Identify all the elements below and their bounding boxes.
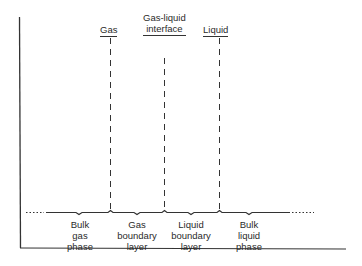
- label-liquid-text: Liquid: [203, 24, 228, 35]
- label-interface-line1: Gas-liquid: [143, 12, 186, 23]
- region-bulk-gas-line2: gas: [60, 230, 100, 241]
- left-axis: [20, 17, 21, 248]
- region-bulk-liquid-line3: phase: [229, 241, 269, 252]
- region-bulk-liquid-line2: liquid: [229, 230, 269, 241]
- region-liquid-boundary-line1: Liquid: [166, 219, 216, 230]
- region-brace-line: [46, 211, 290, 215]
- label-interface-line2: interface: [143, 23, 186, 34]
- label-liquid: Liquid: [203, 24, 228, 37]
- region-bulk-liquid-line1: Bulk: [229, 219, 269, 230]
- region-bulk-gas-phase: Bulk gas phase: [60, 219, 100, 252]
- label-gas-liquid-interface: Gas-liquid interface: [143, 12, 186, 36]
- region-liquid-boundary-line2: boundary: [166, 230, 216, 241]
- region-gas-boundary-line2: boundary: [112, 230, 162, 241]
- gas-liquid-interface-diagram: Gas Gas-liquid interface Liquid Bulk gas…: [0, 0, 362, 266]
- label-gas: Gas: [100, 24, 117, 37]
- label-gas-text: Gas: [100, 24, 117, 35]
- region-gas-boundary-line1: Gas: [112, 219, 162, 230]
- region-gas-boundary-line3: layer: [112, 241, 162, 252]
- region-liquid-boundary-line3: layer: [166, 241, 216, 252]
- region-bulk-gas-line1: Bulk: [60, 219, 100, 230]
- region-gas-boundary-layer: Gas boundary layer: [112, 219, 162, 252]
- region-liquid-boundary-layer: Liquid boundary layer: [166, 219, 216, 252]
- region-bulk-liquid-phase: Bulk liquid phase: [229, 219, 269, 252]
- region-bulk-gas-line3: phase: [60, 241, 100, 252]
